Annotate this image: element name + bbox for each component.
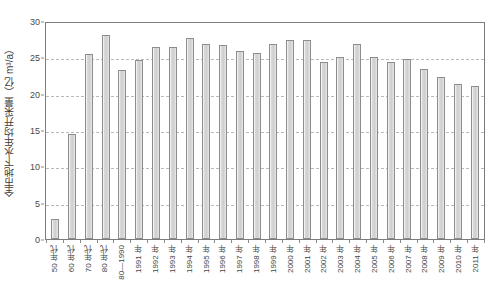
bar [269,44,277,239]
bar [169,47,177,239]
x-axis-label-slot: 2006 年 [383,245,400,303]
x-axis-label-slot: 1992 年 [147,245,164,303]
x-axis-label-slot: 1995 年 [198,245,215,303]
bar [135,60,143,239]
x-axis-tick-mark [265,240,266,243]
x-axis-tick-label: 1991 年 [134,245,143,273]
x-axis-tick-label: 80 年代 [100,245,109,272]
x-axis-tick-mark [467,240,468,243]
bar [370,57,378,239]
x-axis-tick-mark [63,240,64,243]
bar-slot [181,23,198,239]
bar-slot [148,23,165,239]
x-axis-label-slot: 2007 年 [400,245,417,303]
bar [236,51,244,239]
x-axis-tick-label: 2008 年 [420,245,429,273]
bar-slot [64,23,81,239]
x-axis-tick-label: 50 年代 [50,245,59,272]
x-axis-tick-mark [299,240,300,243]
x-axis-label-slot: 2008 年 [417,245,434,303]
x-axis-tick-label: 1998 年 [252,245,261,273]
y-axis-title-text: 全市地下水年均开采量（亿 m³/a） [4,44,15,197]
bar-slot [315,23,332,239]
bar-slot [332,23,349,239]
x-axis-label-slot: 1997 年 [231,245,248,303]
x-axis-label-slot: 2010 年 [450,245,467,303]
x-axis-tick-label: 2002 年 [319,245,328,273]
bar [437,77,445,239]
y-axis-tick-mark [41,131,44,132]
x-axis-tick-mark [417,240,418,243]
x-axis-label-slot: 1999 年 [265,245,282,303]
x-axis-tick-mark [198,240,199,243]
bar-slot [399,23,416,239]
plot-area [45,22,485,240]
x-axis-label-slot: 80 年代 [97,245,114,303]
bar-slot [164,23,181,239]
x-axis-tick-label: 2011 年 [471,245,480,272]
x-axis-tick-mark [164,240,165,243]
x-axis-label-slot: 1998 年 [248,245,265,303]
x-axis-tick-mark [214,240,215,243]
x-axis-label-slot: 2004 年 [349,245,366,303]
x-axis-tick-label: 2010 年 [454,245,463,273]
x-axis-tick-label: 1993 年 [168,245,177,273]
y-axis-tick-mark [41,94,44,95]
bar [420,69,428,239]
bar [320,62,328,239]
x-axis-category-labels: 50 年代60 年代70 年代80 年代80—19901991 年1992 年1… [45,245,485,303]
bar-slot [198,23,215,239]
bar-slot [97,23,114,239]
bar-slot [466,23,483,239]
x-axis-tick-mark [450,240,451,243]
bar [102,35,110,239]
x-axis-label-slot: 1993 年 [164,245,181,303]
y-axis-tick-label: 15 [30,127,40,136]
bar [387,62,395,239]
y-axis-tick-label: 5 [35,199,40,208]
x-axis-tick-mark [349,240,350,243]
y-axis-tick-label: 10 [30,163,40,172]
x-axis-tick-label: 60 年代 [67,245,76,272]
bar-slot [349,23,366,239]
groundwater-extraction-bar-chart: 全市地下水年均开采量（亿 m³/a） 302520151050 50 年代60 … [0,0,490,304]
bar [85,54,93,239]
bar [303,40,311,239]
bar [152,47,160,239]
x-axis-tick-label: 1994 年 [185,245,194,273]
bar [68,134,76,239]
x-axis-tick-mark [97,240,98,243]
y-axis-tick-mark [41,240,44,241]
bar-slot [215,23,232,239]
x-axis-tick-mark [130,240,131,243]
x-axis-tick-label: 80—1990 [117,245,126,280]
y-axis-tick-mark [41,58,44,59]
x-axis-tick-mark [383,240,384,243]
y-axis-tick-mark [41,167,44,168]
x-axis-tick-label: 2000 年 [286,245,295,273]
x-axis-tick-label: 2006 年 [387,245,396,273]
x-axis-tick-mark [113,240,114,243]
y-axis-tick-label: 0 [35,236,40,245]
bar-slot [131,23,148,239]
bar-slot [114,23,131,239]
bar [353,44,361,239]
x-axis-tick-mark [484,240,485,243]
x-axis-tick-label: 2004 年 [353,245,362,273]
x-axis-tick-label: 2009 年 [437,245,446,273]
y-axis-tick-label: 25 [30,54,40,63]
x-axis-label-slot: 2003 年 [332,245,349,303]
bar-slot [282,23,299,239]
bar [186,38,194,239]
bar-slot [449,23,466,239]
bar-slot [433,23,450,239]
x-axis-label-slot: 70 年代 [80,245,97,303]
x-axis-tick-label: 1996 年 [218,245,227,273]
y-axis-tick-mark [41,203,44,204]
y-axis-tick-label: 30 [30,18,40,27]
bar [286,40,294,239]
bar-slot [265,23,282,239]
bar-series [46,23,484,239]
x-axis-label-slot: 2000 年 [282,245,299,303]
x-axis-tick-mark [316,240,317,243]
